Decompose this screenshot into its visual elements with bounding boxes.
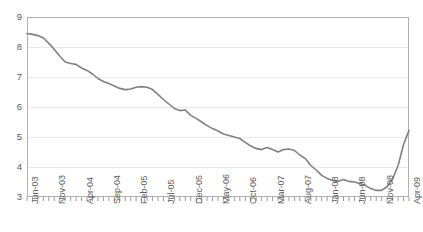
x-tick-label: Jun-08 bbox=[358, 176, 367, 204]
x-tick-label: Jun-03 bbox=[31, 176, 40, 204]
x-tick-label: Aug-07 bbox=[304, 175, 313, 204]
x-axis: Jun-03Nov-03Apr-04Sep-04Feb-05Jul-05Dec-… bbox=[0, 0, 423, 232]
x-tick-label: Nov-03 bbox=[58, 175, 67, 204]
x-tick-label: Feb-05 bbox=[140, 175, 149, 204]
x-tick-label: Apr-04 bbox=[86, 177, 95, 204]
x-tick-label: Dec-05 bbox=[195, 175, 204, 204]
x-tick-label: Jul-05 bbox=[167, 179, 176, 204]
x-tick-label: May-06 bbox=[222, 174, 231, 204]
x-tick-label: Apr-09 bbox=[413, 177, 422, 204]
x-tick-label: Jan-08 bbox=[331, 176, 340, 204]
x-tick-label: Sep-04 bbox=[113, 175, 122, 204]
line-chart: 3456789 Jun-03Nov-03Apr-04Sep-04Feb-05Ju… bbox=[0, 0, 423, 232]
x-tick-label: Nov-08 bbox=[386, 175, 395, 204]
x-tick-label: Oct-06 bbox=[249, 177, 258, 204]
x-tick-label: Mar-07 bbox=[277, 175, 286, 204]
